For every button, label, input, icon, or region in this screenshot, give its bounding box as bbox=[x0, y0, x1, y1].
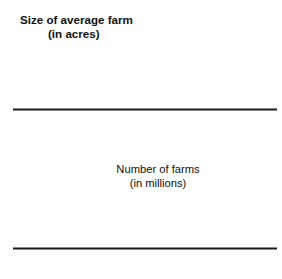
bar-chart-title-line1: Size of average farm bbox=[20, 13, 133, 26]
bar-chart-svg: Size of average farm (in acres) bbox=[0, 0, 282, 132]
line-chart-panel: Number of farms (in millions) bbox=[0, 132, 282, 279]
farm-statistics-figure: Size of average farm (in acres) Number o… bbox=[0, 0, 282, 279]
line-chart-title-line2: (in millions) bbox=[130, 177, 187, 189]
bar-chart-panel: Size of average farm (in acres) bbox=[0, 0, 282, 132]
line-chart-title-line1: Number of farms bbox=[116, 163, 200, 175]
bar-chart-title-line2: (in acres) bbox=[48, 27, 100, 40]
line-chart-svg: Number of farms (in millions) bbox=[0, 132, 282, 279]
